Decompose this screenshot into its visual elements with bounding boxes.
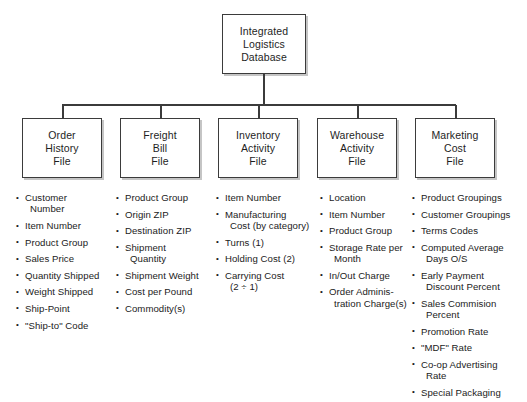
attribute-item: Product Group	[116, 192, 216, 203]
attribute-item-line-1: "Ship-to" Code	[25, 320, 89, 331]
attribute-item-line-2: Discount Percent	[421, 281, 524, 292]
attribute-item: Computed AverageDays O/S	[412, 242, 524, 265]
attribute-item-line-2: Month	[329, 253, 416, 264]
attribute-item: Ship-Point	[16, 303, 112, 314]
file-node-line-2: Cost	[444, 142, 466, 155]
attribute-item-line-1: Shipment	[125, 242, 166, 253]
attribute-item-line-1: Product Group	[125, 192, 188, 203]
attribute-item-line-1: Ship-Point	[25, 303, 70, 314]
attribute-item-line-1: Holding Cost (2)	[225, 253, 295, 264]
attribute-item-line-1: Order Adminis-	[329, 286, 394, 297]
attribute-item: Product Group	[320, 225, 416, 236]
file-node-line-3: File	[348, 155, 365, 168]
attribute-item: Product Groupings	[412, 192, 524, 203]
attribute-item: Product Group	[16, 237, 112, 248]
attribute-item-line-1: Computed Average	[421, 242, 504, 253]
attribute-item-line-2: (2 ÷ 1)	[225, 281, 316, 292]
file-node-line-3: File	[249, 155, 266, 168]
attribute-item-line-1: Manufacturing	[225, 209, 286, 220]
attribute-item: Promotion Rate	[412, 326, 524, 337]
file-node-line-1: Marketing	[431, 129, 478, 142]
attribute-item: Item Number	[216, 192, 316, 203]
attribute-item-line-1: Weight Shipped	[25, 286, 93, 297]
attribute-item-line-1: Customer	[25, 192, 67, 203]
attribute-item-line-1: In/Out Charge	[329, 270, 390, 281]
connector-drop-freight-bill-file	[160, 105, 162, 118]
connector-drop-order-history-file	[62, 105, 64, 118]
attribute-list-order-history-file: CustomerNumberItem NumberProduct GroupSa…	[16, 192, 112, 336]
attribute-item-line-1: Carrying Cost	[225, 270, 284, 281]
root-node-line-1: Integrated	[240, 25, 288, 38]
attribute-item-line-2: Days O/S	[421, 253, 524, 264]
attribute-item-line-1: Sales Commision	[421, 298, 496, 309]
attribute-item-line-2: Rate	[421, 370, 524, 381]
file-node-warehouse-activity-file: Warehouse Activity File	[317, 118, 397, 178]
attribute-item: In/Out Charge	[320, 270, 416, 281]
attribute-item-line-1: Commodity(s)	[125, 303, 185, 314]
attribute-list-warehouse-activity-file: LocationItem NumberProduct GroupStorage …	[320, 192, 416, 314]
file-node-line-2: Activity	[241, 142, 275, 155]
file-node-line-3: File	[53, 155, 70, 168]
file-node-line-2: History	[45, 142, 78, 155]
attribute-item-line-1: "MDF" Rate	[421, 342, 472, 353]
attribute-item-line-1: Item Number	[329, 209, 385, 220]
attribute-item-line-1: Turns (1)	[225, 237, 264, 248]
attribute-item-line-1: Quantity Shipped	[25, 270, 99, 281]
attribute-item-line-1: Shipment Weight	[125, 270, 199, 281]
attribute-item-line-1: Product Group	[25, 237, 88, 248]
attribute-item: Turns (1)	[216, 237, 316, 248]
file-node-line-2: Bill	[153, 142, 167, 155]
file-node-line-1: Freight	[143, 129, 176, 142]
file-node-line-1: Inventory	[236, 129, 280, 142]
connector-drop-marketing-cost-file	[455, 105, 457, 118]
attribute-item: Sales Price	[16, 253, 112, 264]
attribute-item-line-1: Storage Rate per	[329, 242, 403, 253]
connector-drop-warehouse-activity-file	[357, 105, 359, 118]
connector-root-stem	[263, 74, 265, 105]
attribute-item: ManufacturingCost (by category)	[216, 209, 316, 232]
attribute-item-line-1: Early Payment	[421, 270, 484, 281]
root-node-line-3: Database	[241, 51, 287, 64]
file-node-line-1: Warehouse	[330, 129, 384, 142]
file-node-order-history-file: Order History File	[22, 118, 102, 178]
file-node-line-3: File	[151, 155, 168, 168]
connector-drop-inventory-activity-file	[258, 105, 260, 118]
attribute-item: ShipmentQuantity	[116, 242, 216, 265]
attribute-item: Special Packaging	[412, 387, 524, 398]
file-node-line-2: Activity	[340, 142, 374, 155]
file-node-freight-bill-file: Freight Bill File	[120, 118, 200, 178]
attribute-item-line-2: Quantity	[125, 253, 216, 264]
root-node-line-2: Logistics	[243, 38, 285, 51]
attribute-item-line-2: Percent	[421, 309, 524, 320]
attribute-item: Storage Rate perMonth	[320, 242, 416, 265]
attribute-item-line-1: Co-op Advertising	[421, 359, 498, 370]
attribute-item: Cost per Pound	[116, 286, 216, 297]
attribute-item-line-2: Cost (by category)	[225, 220, 316, 231]
attribute-item-line-1: Item Number	[225, 192, 281, 203]
attribute-item-line-1: Customer Groupings	[421, 209, 510, 220]
attribute-item-line-1: Location	[329, 192, 366, 203]
attribute-item-line-1: Promotion Rate	[421, 326, 488, 337]
file-node-line-1: Order	[48, 129, 75, 142]
attribute-item-line-1: Product Groupings	[421, 192, 502, 203]
attribute-item-line-1: Special Packaging	[421, 387, 501, 398]
file-node-marketing-cost-file: Marketing Cost File	[415, 118, 495, 178]
attribute-item: Commodity(s)	[116, 303, 216, 314]
attribute-list-freight-bill-file: Product GroupOrigin ZIPDestination ZIPSh…	[116, 192, 216, 320]
root-node-integrated-logistics-database: Integrated Logistics Database	[222, 14, 306, 74]
attribute-list-marketing-cost-file: Product GroupingsCustomer GroupingsTerms…	[412, 192, 524, 402]
attribute-item: Co-op AdvertisingRate	[412, 359, 524, 382]
attribute-item: "MDF" Rate	[412, 342, 524, 353]
attribute-item: Location	[320, 192, 416, 203]
attribute-item: Terms Codes	[412, 225, 524, 236]
attribute-item: "Ship-to" Code	[16, 320, 112, 331]
attribute-item: Weight Shipped	[16, 286, 112, 297]
attribute-item: Holding Cost (2)	[216, 253, 316, 264]
attribute-item: Origin ZIP	[116, 209, 216, 220]
attribute-item: Destination ZIP	[116, 225, 216, 236]
attribute-item-line-1: Origin ZIP	[125, 209, 169, 220]
attribute-item-line-2: Number	[25, 203, 112, 214]
attribute-item: Order Adminis-tration Charge(s)	[320, 286, 416, 309]
attribute-item-line-1: Product Group	[329, 225, 392, 236]
attribute-list-inventory-activity-file: Item NumberManufacturingCost (by categor…	[216, 192, 316, 298]
